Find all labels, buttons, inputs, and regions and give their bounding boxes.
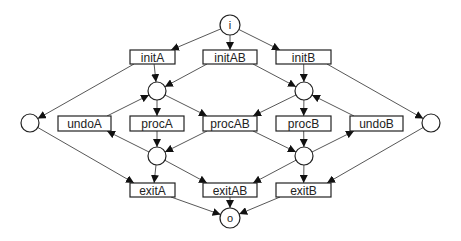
transition-procAB: procAB [203,116,257,131]
arc-procAB-to-pB2 [253,131,296,152]
arc-pL-to-exitA [38,128,134,184]
arc-initB-to-pR [327,64,423,119]
transition-label: undoA [67,117,102,131]
transition-label: initA [141,51,164,65]
place-pL [21,114,39,132]
place-pB2 [295,147,313,165]
arc-pB2-to-exitAB [253,160,296,183]
arc-pA2-to-exitAB [165,160,207,183]
transition-label: exitA [139,184,166,198]
transition-exitA: exitA [130,183,175,198]
place-label: i [229,19,231,31]
arc-pA2-to-undoA [107,131,149,152]
transition-label: undoB [359,117,394,131]
place-pA1 [148,82,166,100]
transition-initA: initA [130,50,175,65]
transition-procA: procA [130,116,184,131]
transition-procB: procB [276,116,331,131]
transition-exitB: exitB [276,183,331,198]
arc-pB2-to-undoB [312,131,354,152]
place-circle [148,147,166,165]
arc-initA-to-pL [38,64,134,119]
transition-label: initAB [214,51,245,65]
arc-initAB-to-pA1 [165,64,207,87]
transitions-layer: initAinitABinitBundoAprocAprocABprocBund… [58,50,403,198]
arc-pA2-to-exitA [154,165,156,183]
petri-net-diagram: io initAinitABinitBundoAprocAprocABprocB… [0,0,461,241]
arc-initA-to-pA1 [154,64,156,82]
transition-exitAB: exitAB [203,183,257,198]
arc-pB1-to-procAB [253,95,296,116]
place-pA2 [148,147,166,165]
transition-undoB: undoB [350,116,403,131]
place-circle [295,82,313,100]
transition-label: procAB [210,117,249,131]
arc-undoA-to-pA1 [107,95,149,116]
arc-i-to-initB [239,30,280,51]
transition-initAB: initAB [203,50,257,65]
arc-initAB-to-pB1 [253,64,296,87]
place-circle [422,114,440,132]
arc-procAB-to-pA2 [165,131,207,152]
place-label: o [227,212,233,224]
arc-exitA-to-o [171,197,221,215]
transition-label: initB [292,51,315,65]
transition-label: procA [141,117,172,131]
place-circle [148,82,166,100]
place-circle [21,114,39,132]
transition-label: exitAB [213,184,248,198]
transition-label: exitB [290,184,317,198]
place-circle [295,147,313,165]
place-pR [422,114,440,132]
arc-pA1-to-procAB [165,95,207,116]
place-i: i [220,15,240,35]
arc-i-to-initA [171,29,221,50]
transition-label: procB [288,117,319,131]
arc-pR-to-exitB [327,128,423,184]
place-o: o [220,208,240,228]
arc-exitB-to-o [239,197,280,214]
place-pB1 [295,82,313,100]
transition-undoA: undoA [58,116,111,131]
transition-initB: initB [276,50,331,65]
arc-undoB-to-pB1 [312,95,354,116]
